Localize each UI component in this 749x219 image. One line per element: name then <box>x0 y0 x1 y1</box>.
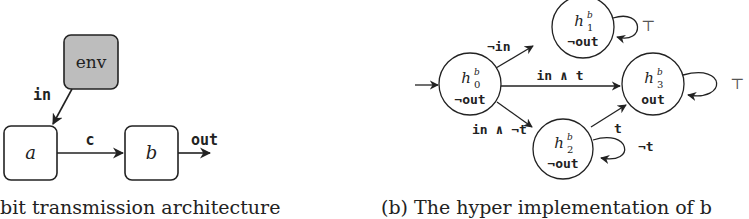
transition-h0-h1-label: ¬in <box>487 39 510 54</box>
state-h2-sub: 2 <box>567 144 573 155</box>
a-label: a <box>25 142 36 163</box>
env-label: env <box>76 52 107 72</box>
state-h1-sup: b <box>587 10 593 20</box>
panel-a-caption: bit transmission architecture <box>0 196 280 218</box>
edge-out-label: out <box>191 131 218 149</box>
transition-h0-h2-label: in ∧ ¬t <box>472 122 527 137</box>
state-h1: h b 1 ¬out <box>552 0 614 58</box>
panel-a-architecture: env in a c b out bit transmission archit… <box>0 35 280 218</box>
state-h2: h b 2 ¬out <box>533 119 593 179</box>
svg-text:h: h <box>461 69 471 87</box>
state-h0: h b 0 ¬out <box>439 53 501 115</box>
svg-text:h: h <box>644 69 654 87</box>
state-h2-sup: b <box>567 132 573 142</box>
svg-text:h: h <box>554 134 564 152</box>
state-h0-sup: b <box>474 67 480 77</box>
state-h3: h b 3 out <box>622 53 684 115</box>
a-node: a <box>4 126 57 180</box>
state-h0-sub: 0 <box>474 79 480 90</box>
transition-h0-h3-label: in ∧ t <box>537 68 584 83</box>
state-h2-output: ¬out <box>547 156 578 171</box>
state-h3-sub: 3 <box>657 79 663 90</box>
transition-h2-h3: t <box>591 105 626 136</box>
panel-b-caption: (b) The hyper implementation of b <box>381 196 712 218</box>
state-h3-sup: b <box>657 67 663 77</box>
svg-text:h: h <box>574 12 584 30</box>
transition-h3-loop-label: ⊤ <box>730 75 744 93</box>
transition-h3-loop: ⊤ <box>683 73 744 96</box>
state-h1-output: ¬out <box>567 34 598 49</box>
b-node: b <box>125 126 178 180</box>
state-h3-output: out <box>641 92 664 107</box>
state-h1-name: h <box>574 12 584 30</box>
edge-b-out: out <box>178 131 218 153</box>
state-h1-sub: 1 <box>587 22 593 33</box>
panel-b-hyper-implementation: h b 0 ¬out h b 1 ¬out h b 2 ¬out h b 3 o… <box>381 0 744 218</box>
transition-h1-loop-label: ⊤ <box>641 17 655 35</box>
state-h3-name: h <box>644 69 654 87</box>
b-label: b <box>146 142 158 163</box>
edge-a-to-b: c <box>57 131 123 153</box>
state-h0-name: h <box>461 69 471 87</box>
edge-env-to-a: in <box>33 86 72 124</box>
transition-h0-h3: in ∧ t <box>501 68 620 86</box>
edge-in-label: in <box>33 86 51 104</box>
edge-c-label: c <box>85 131 94 149</box>
state-h0-output: ¬out <box>454 92 485 107</box>
env-node: env <box>64 35 118 89</box>
transition-h2-loop-label: ¬t <box>638 139 654 154</box>
state-h2-name: h <box>554 134 564 152</box>
transition-h1-loop: ⊤ <box>613 16 655 38</box>
transition-h2-loop: ¬t <box>593 138 654 159</box>
transition-h2-h3-label: t <box>614 121 622 136</box>
